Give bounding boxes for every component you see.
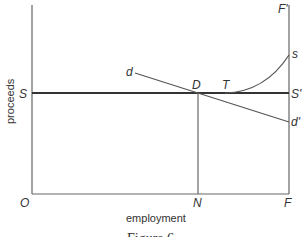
label-T: T: [222, 78, 231, 92]
label-f-prime: F': [278, 2, 288, 16]
label-s-prime: S': [291, 87, 302, 101]
label-F: F: [284, 196, 292, 210]
label-s-small: s: [292, 47, 298, 61]
label-d-prime: d': [291, 115, 301, 129]
figure-caption: Figure 6: [127, 231, 174, 237]
label-D: D: [192, 78, 201, 92]
x-axis-label: employment: [126, 212, 186, 224]
diagram-canvas: F' s S' d' S d D T O N F employment proc…: [0, 0, 303, 237]
y-axis-label: proceeds: [4, 78, 16, 124]
supply-curve: [225, 55, 289, 93]
label-d: d: [126, 65, 133, 79]
label-N: N: [193, 196, 202, 210]
label-s: S: [19, 87, 27, 101]
label-origin: O: [20, 196, 29, 210]
